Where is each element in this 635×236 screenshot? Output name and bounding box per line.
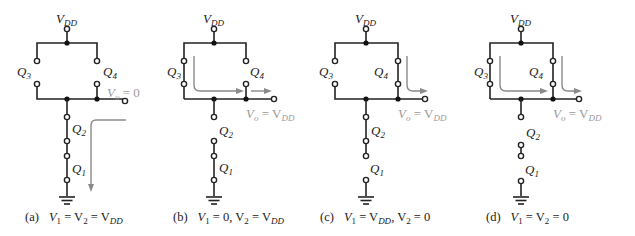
caption-d: (d)V1 = V2 = 0 xyxy=(486,210,569,226)
output-value-label: Vo = VDD xyxy=(398,106,447,123)
q2-label: Q2 xyxy=(526,125,540,142)
panel-d: VDD Q3 Q4 Vo = VDD Q2 Q1 xyxy=(474,11,602,226)
q1-label: Q1 xyxy=(72,161,86,178)
q4-label: Q4 xyxy=(103,64,117,81)
q4-switch-bottom xyxy=(94,81,99,86)
panel-c: VDD Q3 Q4 Vo = VDD Q2 Q1 xyxy=(319,11,447,226)
current-flow-arrow xyxy=(407,56,421,91)
current-flow-arrow xyxy=(91,120,126,186)
q4-label: Q4 xyxy=(529,64,543,81)
q4-label: Q4 xyxy=(250,64,264,81)
ground-icon xyxy=(513,197,529,204)
caption-c: (c)V1 = VDD, V2 = 0 xyxy=(320,210,430,226)
current-flow-arrow xyxy=(562,56,575,91)
ground-icon xyxy=(59,197,75,204)
q2-label: Q2 xyxy=(219,123,233,140)
q1-label: Q1 xyxy=(525,162,539,179)
q3-label: Q3 xyxy=(167,64,181,81)
caption-b: (b)V1 = 0, V2 = VDD xyxy=(173,210,284,226)
q1-label: Q1 xyxy=(370,161,384,178)
vdd-label: VDD xyxy=(203,11,224,28)
q4-label: Q4 xyxy=(374,64,388,81)
vdd-terminal xyxy=(64,26,69,31)
caption-a: (a)V1 = V2 = VDD xyxy=(25,210,123,226)
q1-label: Q1 xyxy=(219,160,233,177)
output-value-label: Vo = VDD xyxy=(246,106,295,123)
vdd-label: VDD xyxy=(510,11,531,28)
q2-label: Q2 xyxy=(371,123,385,140)
q4-switch-top xyxy=(94,58,99,63)
q3-switch-bottom xyxy=(34,81,39,86)
q2-label: Q2 xyxy=(72,121,86,138)
panel-a: VDD Q3 Q4 Vo = 0 Q2 Q1 xyxy=(17,11,140,226)
q3-switch-top xyxy=(34,58,39,63)
output-value-label: Vo = VDD xyxy=(553,106,602,123)
cmos-nand-switch-diagram: VDD Q3 Q4 Vo = 0 Q2 Q1 xyxy=(0,0,635,236)
q3-label: Q3 xyxy=(474,64,488,81)
q3-label: Q3 xyxy=(17,64,31,81)
current-flow-arrow xyxy=(194,56,237,91)
vdd-label: VDD xyxy=(355,11,376,28)
panel-b: VDD Q3 Q4 Vo = VDD Q2 Q1 xyxy=(167,11,295,226)
ground-icon xyxy=(206,197,222,204)
ground-icon xyxy=(358,197,374,204)
output-value-label: Vo = 0 xyxy=(107,85,140,102)
vdd-label: VDD xyxy=(56,11,77,28)
q3-label: Q3 xyxy=(319,64,333,81)
